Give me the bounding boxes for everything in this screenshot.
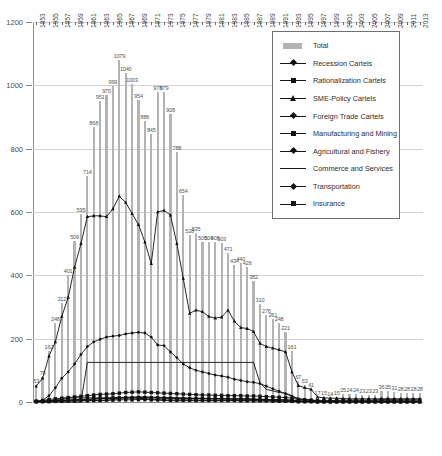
x-axis-tick-label: 1969 xyxy=(141,13,148,28)
x-axis-tick-label: 1955 xyxy=(52,13,59,28)
x-axis-tick xyxy=(126,22,127,25)
legend-marker xyxy=(291,201,296,206)
data-point-marker xyxy=(258,399,261,402)
data-point-marker xyxy=(41,376,44,379)
data-point-marker xyxy=(373,400,376,403)
data-point-marker xyxy=(201,370,204,373)
data-point-marker xyxy=(226,394,229,397)
data-point-marker xyxy=(233,399,236,402)
y-axis-tick xyxy=(26,402,32,403)
data-point-marker xyxy=(194,393,197,396)
x-axis-tick-label: 1991 xyxy=(282,13,289,28)
data-point-marker xyxy=(86,399,89,402)
data-point-marker xyxy=(354,400,357,403)
legend-marker xyxy=(290,147,297,154)
data-point-marker xyxy=(118,194,121,197)
x-axis-tick-label: 2001 xyxy=(346,13,353,28)
x-axis-tick-label: 1999 xyxy=(333,13,340,28)
data-point-marker xyxy=(309,400,312,403)
legend-marker xyxy=(290,183,297,190)
data-point-marker xyxy=(322,400,325,403)
data-point-marker xyxy=(265,399,268,402)
data-point-marker xyxy=(201,393,204,396)
legend-item-sme-policy-cartels[interactable]: SME-Policy Cartels xyxy=(278,90,395,108)
y-axis-tick-label: 200 xyxy=(10,334,23,343)
data-point-marker xyxy=(111,334,114,337)
data-point-marker xyxy=(297,400,300,403)
data-point-marker xyxy=(60,400,63,403)
legend-key-icon xyxy=(278,40,308,51)
x-axis-tick xyxy=(266,22,267,25)
x-axis-tick xyxy=(190,22,191,25)
x-axis-tick-label: 1961 xyxy=(90,13,97,28)
y-axis-tick-label: 1000 xyxy=(6,81,23,90)
x-axis-tick xyxy=(151,22,152,25)
data-point-marker xyxy=(118,398,121,401)
x-axis-tick xyxy=(202,22,203,25)
data-point-marker xyxy=(111,392,114,395)
x-axis-tick-label: 1977 xyxy=(192,13,199,28)
x-axis-tick xyxy=(62,22,63,25)
legend-item-commerce-and-services[interactable]: Commerce and Services xyxy=(278,160,395,178)
data-point-marker xyxy=(143,240,146,243)
y-axis-tick-label: 1200 xyxy=(6,18,23,27)
data-point-marker xyxy=(73,399,76,402)
legend-item-recession-cartels[interactable]: Recession Cartels xyxy=(278,55,395,73)
data-point-marker xyxy=(98,393,101,396)
legend-item-rationalization-cartels[interactable]: Rationalization Cartels xyxy=(278,72,395,90)
data-point-marker xyxy=(207,393,210,396)
legend-key-icon xyxy=(278,163,308,174)
y-axis-tick xyxy=(26,275,32,276)
y-axis-tick xyxy=(26,212,32,213)
legend-key-icon xyxy=(278,58,308,69)
data-point-marker xyxy=(239,399,242,402)
legend-item-total[interactable]: Total xyxy=(278,37,395,55)
x-axis-tick xyxy=(279,22,280,25)
y-axis-tick xyxy=(26,339,32,340)
data-point-marker xyxy=(143,390,146,393)
data-point-marker xyxy=(361,400,364,403)
data-point-marker xyxy=(233,394,236,397)
legend-item-foreign-trade-cartels[interactable]: Foreign Trade Cartels xyxy=(278,107,395,125)
data-point-marker xyxy=(169,392,172,395)
data-point-marker xyxy=(393,400,396,403)
x-axis-tick-label: 2007 xyxy=(384,13,391,28)
data-point-marker xyxy=(245,399,248,402)
data-point-marker xyxy=(124,332,127,335)
legend-item-label: Insurance xyxy=(313,200,345,207)
data-point-marker xyxy=(277,399,280,402)
x-axis-tick-label: 2009 xyxy=(397,13,404,28)
legend-key-icon xyxy=(278,146,308,157)
data-point-marker xyxy=(201,399,204,402)
x-axis-tick-label: 1995 xyxy=(307,13,314,28)
data-point-marker xyxy=(66,295,69,298)
data-point-marker xyxy=(335,400,338,403)
data-point-marker xyxy=(156,391,159,394)
x-axis-tick xyxy=(254,22,255,25)
x-axis-tick-label: 1997 xyxy=(320,13,327,28)
x-axis-tick xyxy=(305,22,306,25)
data-point-marker xyxy=(271,399,274,402)
x-axis-tick-label: 1971 xyxy=(154,13,161,28)
data-point-marker xyxy=(92,393,95,396)
legend-item-transportation[interactable]: Transportation xyxy=(278,178,395,196)
legend-item-insurance[interactable]: Insurance xyxy=(278,195,395,213)
data-point-marker xyxy=(226,399,229,402)
data-point-marker xyxy=(34,400,37,403)
x-axis-tick-label: 1983 xyxy=(231,13,238,28)
data-point-marker xyxy=(239,379,242,382)
legend-item-agricultural-and-fishery[interactable]: Agricultural and Fishery xyxy=(278,143,395,161)
data-point-marker xyxy=(118,334,121,337)
data-point-marker xyxy=(111,398,114,401)
x-axis-tick xyxy=(100,22,101,25)
data-point-marker xyxy=(233,378,236,381)
data-point-marker xyxy=(118,391,121,394)
legend-item-label: Commerce and Services xyxy=(313,165,393,172)
legend-key-icon xyxy=(278,181,308,192)
data-point-marker xyxy=(412,400,415,403)
y-axis-tick xyxy=(26,149,32,150)
legend-item-manufacturing-and-mining[interactable]: Manufacturing and Mining xyxy=(278,125,395,143)
data-point-marker xyxy=(252,399,255,402)
legend-item-label: Foreign Trade Cartels xyxy=(313,113,384,120)
line-series xyxy=(34,194,421,400)
